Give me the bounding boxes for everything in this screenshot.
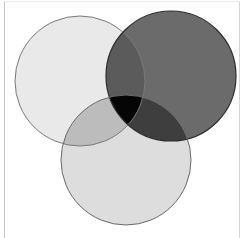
venn-diagram [0,0,245,238]
